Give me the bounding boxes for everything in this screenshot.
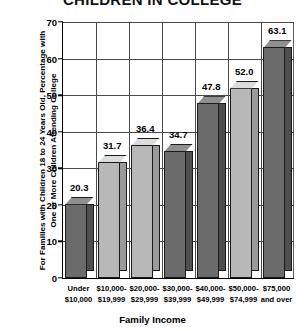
y-axis-tick-label: 10 — [46, 236, 57, 247]
bar-slot: 63.1 — [263, 22, 292, 278]
x-axis-title: Family Income — [0, 314, 305, 325]
bar-slot: 34.7 — [164, 22, 193, 278]
bar-front-face — [263, 47, 285, 278]
bar-side-face — [252, 88, 259, 271]
y-axis-tick-label: 0 — [52, 273, 57, 284]
bar[interactable]: 31.7 — [98, 162, 127, 278]
y-axis-tick-label: 20 — [46, 199, 57, 210]
bar-side-face — [186, 151, 193, 271]
bar[interactable]: 63.1 — [263, 47, 292, 278]
bar[interactable]: 36.4 — [131, 145, 160, 278]
y-axis-tick-label: 40 — [46, 126, 57, 137]
bar-value-label: 63.1 — [268, 25, 287, 36]
bar-side-face — [153, 145, 160, 271]
bar-front-face — [164, 151, 186, 278]
bar-front-face — [98, 162, 120, 278]
bar-front-face — [65, 204, 87, 278]
gridline-vertical — [228, 22, 229, 278]
bar-slot: 52.0 — [230, 22, 259, 278]
bar-value-label: 20.3 — [70, 182, 89, 193]
plot-frame-right — [293, 22, 294, 278]
gridline-vertical — [162, 22, 163, 278]
bar-front-face — [197, 103, 219, 278]
y-axis-tick-mark — [58, 241, 63, 242]
bar-value-label: 36.4 — [136, 123, 155, 134]
y-axis-tick-label: 50 — [46, 90, 57, 101]
bar-slot: 47.8 — [197, 22, 226, 278]
y-axis-tick-label: 30 — [46, 163, 57, 174]
x-axis-tick-label: $75,000and over — [256, 284, 297, 305]
bar[interactable]: 34.7 — [164, 151, 193, 278]
gridline-vertical — [96, 22, 97, 278]
y-axis-tick-label: 70 — [46, 17, 57, 28]
bar-value-label: 52.0 — [235, 66, 254, 77]
gridline-vertical — [129, 22, 130, 278]
x-axis-tick-line: and over — [256, 295, 297, 306]
bar[interactable]: 52.0 — [230, 88, 259, 278]
y-axis-tick-mark — [58, 21, 63, 22]
x-axis-ticks: Under$10,000$10,000-$19,999$20,000-$29,9… — [62, 284, 293, 308]
y-axis-tick-label: 60 — [46, 53, 57, 64]
y-axis-tick-mark — [58, 131, 63, 132]
bar-side-face — [120, 162, 127, 271]
gridline-vertical — [261, 22, 262, 278]
chart-title: CHILDREN IN COLLEGE — [0, 0, 305, 5]
bar-slot: 36.4 — [131, 22, 160, 278]
gridline-vertical — [195, 22, 196, 278]
bar-front-face — [131, 145, 153, 278]
bar-value-label: 31.7 — [103, 140, 122, 151]
y-axis-tick-mark — [58, 168, 63, 169]
bar-slot: 31.7 — [98, 22, 127, 278]
bar-side-face — [219, 103, 226, 271]
y-axis-tick-mark — [58, 277, 63, 278]
bar-side-face — [87, 204, 94, 271]
bar[interactable]: 20.3 — [65, 204, 94, 278]
y-axis-tick-mark — [58, 204, 63, 205]
bar[interactable]: 47.8 — [197, 103, 226, 278]
y-axis-tick-mark — [58, 58, 63, 59]
bar-value-label: 34.7 — [169, 129, 188, 140]
bar-front-face — [230, 88, 252, 278]
bar-side-face — [285, 47, 292, 271]
bar-value-label: 47.8 — [202, 81, 221, 92]
plot-area: 010203040506070 20.331.736.434.747.852.0… — [62, 22, 294, 279]
x-axis-tick-line: $75,000 — [256, 284, 297, 295]
y-axis-tick-mark — [58, 94, 63, 95]
bar-slot: 20.3 — [65, 22, 94, 278]
